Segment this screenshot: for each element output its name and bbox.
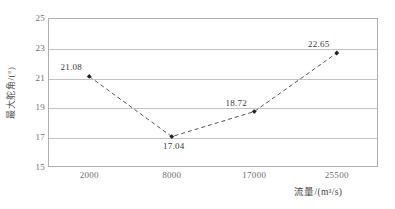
y-axis-tick-label: 19 (35, 102, 45, 112)
x-axis-tick-label: 25500 (325, 170, 349, 180)
x-axis-tick-label: 17000 (242, 170, 266, 180)
chart-container: 最大舵角/(°) 151719212325 21.0817.0418.7222.… (0, 0, 395, 209)
y-axis-tick-label: 23 (35, 43, 45, 53)
gridline (49, 79, 377, 80)
y-axis-tick-label: 17 (35, 132, 45, 142)
y-axis-tick-label: 21 (35, 73, 45, 83)
data-point-label: 18.72 (225, 98, 247, 108)
data-point-label: 17.04 (163, 141, 185, 151)
x-axis-tick-label: 2000 (80, 170, 99, 180)
y-axis-tick-labels: 151719212325 (22, 18, 45, 167)
x-axis-tick-labels: 200080001700025500 (48, 170, 378, 184)
x-axis-tick-label: 8000 (162, 170, 181, 180)
x-axis-title: 流量/(m³/s) (248, 184, 388, 198)
y-axis-title: 最大舵角/(°) (2, 18, 18, 167)
y-axis-title-text: 最大舵角/(°) (4, 66, 17, 118)
data-point-label: 22.65 (308, 39, 330, 49)
gridline (49, 108, 377, 109)
y-axis-tick-label: 15 (35, 162, 45, 172)
gridline (49, 138, 377, 139)
y-axis-tick-label: 25 (35, 13, 45, 23)
data-point-label: 21.08 (60, 62, 82, 72)
